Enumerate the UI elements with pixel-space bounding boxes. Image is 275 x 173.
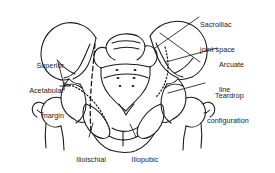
label-ilioischial-line: Ilioischial line: [70, 139, 112, 173]
label-line: Sacroiliac: [200, 21, 235, 29]
obturator-foramen-right: [137, 104, 164, 138]
label-line: configuration: [207, 117, 249, 125]
leader-lines: [58, 17, 217, 137]
sacrum: [94, 34, 157, 115]
label-teardrop-configuration: Teardrop configuration: [207, 75, 249, 134]
right-femoral-head: [183, 97, 205, 150]
label-line: Arcuate: [219, 61, 244, 69]
label-iliopubic-line: Iliopubic line: [124, 139, 166, 173]
right-acetabulum: [161, 79, 186, 123]
label-line: Iliopubic: [124, 156, 166, 164]
label-line: Superior: [2, 62, 64, 70]
leader-crossing-marks: [160, 33, 200, 62]
right-iliac-wing: [150, 21, 207, 84]
iliopubic-dotted-line: [66, 84, 110, 131]
sacral-foramina: [116, 69, 137, 87]
label-superior-acetabular-margin: Superior Acetabular margin: [2, 45, 64, 129]
arcuate-dotted-line: [156, 47, 168, 97]
obturator-foramen-left: [83, 104, 110, 138]
label-line: Ilioischial: [70, 156, 112, 164]
label-line: Acetabular: [2, 87, 64, 95]
label-line: Teardrop: [207, 92, 249, 100]
label-line: margin: [2, 112, 64, 120]
